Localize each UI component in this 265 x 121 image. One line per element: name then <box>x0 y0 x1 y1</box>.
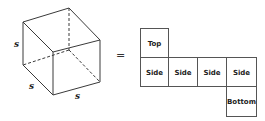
equals-sign: = <box>116 49 125 62</box>
cube-drawing: s s s <box>14 8 100 101</box>
cube-edge-top-left <box>23 8 69 22</box>
cube-net: Top Side Side Side Side Bottom <box>141 29 257 117</box>
cube-edge-top-right <box>69 8 100 40</box>
cube-net-diagram: s s s = Top Side Side Side Side Bottom <box>0 0 265 121</box>
net-cell-label: Side <box>203 69 220 77</box>
net-cell-top: Top <box>141 29 169 58</box>
edge-label-depth: s <box>29 81 34 91</box>
cube-edge-bottom-left <box>23 65 53 95</box>
edge-label-vertical: s <box>14 39 19 49</box>
net-cell-label: Top <box>148 40 162 48</box>
net-cell-side: Side <box>198 58 227 87</box>
cube-hidden-edge-right <box>69 50 100 82</box>
net-cell-side: Side <box>169 58 198 87</box>
net-cell-side: Side <box>227 58 257 87</box>
net-cell-bottom: Bottom <box>227 87 257 117</box>
net-cell-label: Side <box>146 69 163 77</box>
edge-label-width: s <box>75 91 80 101</box>
cube-hidden-edge-left <box>23 50 69 65</box>
net-cell-label: Side <box>174 69 191 77</box>
cube-edge-top-leftfront <box>23 22 53 52</box>
cube-edge-top-front <box>53 40 100 52</box>
net-cell-side: Side <box>141 58 169 87</box>
net-cell-label: Side <box>233 69 250 77</box>
net-cell-label: Bottom <box>227 98 256 106</box>
